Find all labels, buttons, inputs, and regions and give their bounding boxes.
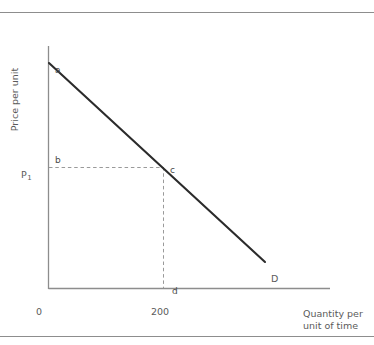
price-p-letter: P — [21, 169, 27, 180]
y-axis-label: Price per unit — [9, 55, 20, 145]
point-label-a: a — [55, 65, 61, 76]
point-label-d: d — [172, 286, 178, 297]
x-axis-label: Quantity perunit of time — [303, 308, 369, 332]
price-p-subscript: 1 — [27, 174, 31, 182]
x-axis-label-line1: Quantity per — [303, 308, 363, 319]
chart-svg — [0, 12, 374, 336]
point-label-c: c — [170, 165, 175, 176]
demand-curve-line — [49, 63, 265, 262]
demand-curve-plot: Price per unit P1 a b c d D 0 200 Quanti… — [0, 12, 374, 336]
demand-curve-label: D — [271, 273, 278, 284]
point-label-b: b — [55, 155, 61, 166]
x-axis-label-line2: unit of time — [303, 320, 358, 331]
bottom-divider-rule — [0, 336, 374, 337]
origin-label: 0 — [36, 306, 42, 317]
clipped-caption-text — [18, 0, 358, 9]
x-tick-label-200: 200 — [151, 306, 169, 317]
figure-container: Price per unit P1 a b c d D 0 200 Quanti… — [0, 0, 374, 345]
price-p1-label: P1 — [21, 169, 31, 182]
